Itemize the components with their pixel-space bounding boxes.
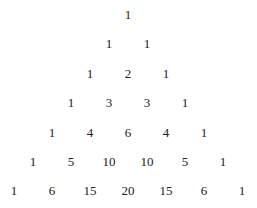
triangle-cell: 10: [94, 155, 124, 169]
pascal-triangle: 111121133114641151010511615201561: [0, 0, 257, 208]
triangle-cell: 1: [56, 96, 86, 110]
triangle-cell: 2: [113, 67, 143, 81]
triangle-cell: 1: [227, 184, 257, 198]
triangle-cell: 6: [189, 184, 219, 198]
triangle-cell: 1: [75, 67, 105, 81]
triangle-cell: 5: [56, 155, 86, 169]
triangle-cell: 4: [151, 126, 181, 140]
triangle-cell: 1: [94, 37, 124, 51]
triangle-cell: 1: [208, 155, 238, 169]
triangle-cell: 1: [37, 126, 67, 140]
triangle-cell: 15: [151, 184, 181, 198]
triangle-cell: 3: [132, 96, 162, 110]
triangle-cell: 1: [170, 96, 200, 110]
triangle-cell: 1: [18, 155, 48, 169]
triangle-cell: 1: [113, 8, 143, 22]
triangle-cell: 1: [151, 67, 181, 81]
triangle-cell: 4: [75, 126, 105, 140]
triangle-cell: 1: [189, 126, 219, 140]
triangle-cell: 20: [113, 184, 143, 198]
triangle-cell: 6: [113, 126, 143, 140]
triangle-cell: 5: [170, 155, 200, 169]
triangle-cell: 15: [75, 184, 105, 198]
triangle-cell: 10: [132, 155, 162, 169]
triangle-cell: 3: [94, 96, 124, 110]
triangle-cell: 6: [37, 184, 67, 198]
triangle-cell: 1: [0, 184, 29, 198]
triangle-cell: 1: [132, 37, 162, 51]
